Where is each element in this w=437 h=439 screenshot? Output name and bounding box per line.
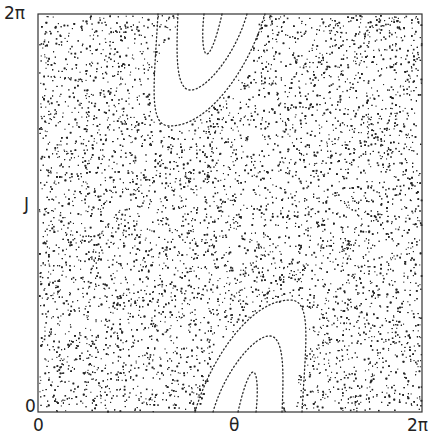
y-tick-top: 2π (4, 5, 25, 22)
y-axis-label: J (24, 196, 29, 213)
poincare-plot (0, 0, 437, 439)
y-tick-bottom: 0 (25, 398, 36, 415)
x-tick-left: 0 (33, 417, 44, 434)
bottom-island-middle (213, 336, 283, 412)
bottom-island-inner (238, 372, 257, 412)
x-tick-right: 2π (407, 417, 428, 434)
x-axis-label: θ (229, 417, 239, 434)
top-island-middle (177, 14, 247, 90)
chaotic-sea-dots (39, 15, 423, 412)
top-island-outer (154, 14, 265, 126)
island-curves (154, 14, 306, 412)
top-island-inner (203, 14, 222, 54)
bottom-island-outer (195, 300, 306, 412)
